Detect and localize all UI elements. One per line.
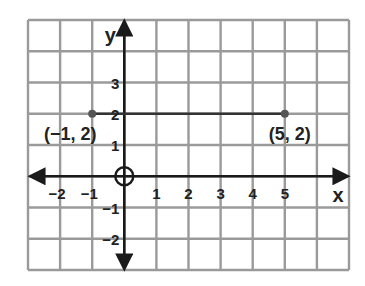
- y-tick-label: 1: [111, 137, 119, 154]
- labels: −2−112345321−1−2xy(−1, 2)(5, 2): [44, 24, 344, 248]
- coordinate-plane: −2−112345321−1−2xy(−1, 2)(5, 2): [0, 0, 365, 286]
- point-label: (−1, 2): [44, 124, 97, 144]
- y-tick-label: 2: [111, 106, 119, 123]
- y-tick-label: −1: [102, 200, 119, 217]
- y-tick-label: 3: [111, 75, 119, 92]
- x-tick-label: −2: [49, 185, 66, 202]
- x-tick-label: 5: [281, 185, 289, 202]
- x-axis-label: x: [332, 184, 343, 206]
- x-tick-label: 1: [152, 185, 160, 202]
- x-tick-label: 3: [216, 185, 224, 202]
- x-tick-label: 4: [249, 185, 258, 202]
- point-label: (5, 2): [269, 124, 311, 144]
- x-tick-label: −1: [81, 185, 98, 202]
- grid: [28, 20, 349, 270]
- x-tick-label: 2: [184, 185, 192, 202]
- data-point: [88, 110, 96, 118]
- y-axis-label: y: [105, 24, 117, 46]
- data-point: [281, 110, 289, 118]
- y-tick-label: −2: [102, 231, 119, 248]
